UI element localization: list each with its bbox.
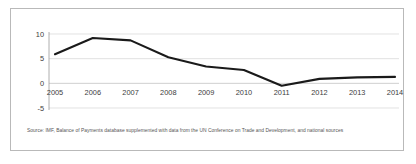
x-axis-tick-label: 2014 [387,88,403,97]
chart-figure-frame: 1050-52005200620072008200920102011201220… [10,8,404,151]
x-axis-tick-label: 2007 [122,88,138,97]
x-axis-tick-label: 2006 [85,88,101,97]
data-series-line [55,38,395,86]
x-axis-tick-label: 2009 [198,88,214,97]
x-axis-tick-label: 2005 [47,88,63,97]
x-axis-tick-label: 2010 [236,88,252,97]
x-axis-tick-label: 2011 [274,88,290,97]
y-axis-tick-label: 10 [36,30,44,39]
x-axis-tick-label: 2008 [160,88,176,97]
chart-source-note: Source: IMF, Balance of Payments databas… [27,127,399,134]
x-axis-tick-label: 2013 [349,88,365,97]
x-axis-tick-label: 2012 [311,88,327,97]
y-axis-tick-label: 5 [40,54,44,63]
y-axis-tick-label: 0 [40,79,44,88]
y-axis-tick-label: -5 [37,104,44,113]
